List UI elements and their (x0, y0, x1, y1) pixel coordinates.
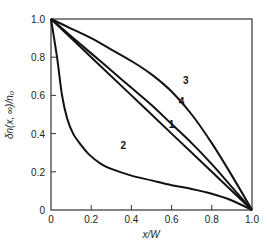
y-tick-label: 0.2 (31, 167, 45, 178)
x-axis-label: x/W (141, 229, 161, 240)
curves (51, 19, 252, 210)
line-chart: 00.20.40.60.81.000.20.40.60.81.0 1234 x/… (0, 0, 267, 247)
x-tick-label: 0.2 (84, 214, 98, 225)
curve-label-2: 2 (121, 140, 127, 151)
x-tick-label: 0.8 (205, 214, 219, 225)
x-tick-label: 0 (48, 214, 54, 225)
curve-label-3: 3 (183, 75, 189, 86)
x-tick-label: 0.4 (124, 214, 138, 225)
y-tick-label: 0.6 (31, 90, 45, 101)
y-tick-label: 0.4 (31, 129, 45, 140)
y-tick-label: 1.0 (31, 14, 45, 25)
x-tick-label: 1.0 (245, 214, 259, 225)
y-axis-label: δn(x, ∞)/n₀ (4, 91, 15, 139)
y-tick-label: 0 (39, 205, 45, 216)
curve-label-1: 1 (169, 119, 175, 130)
x-tick-label: 0.6 (165, 214, 179, 225)
y-tick-label: 0.8 (31, 52, 45, 63)
axis-ticks: 00.20.40.60.81.000.20.40.60.81.0 (31, 14, 259, 225)
curve-label-4: 4 (179, 96, 185, 107)
